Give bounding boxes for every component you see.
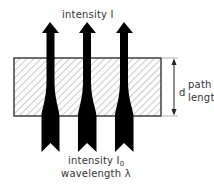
output-intensity-label: intensity I (62, 9, 114, 20)
input-intensity-subscript: 0 (120, 160, 125, 168)
beam-arrow-head (116, 22, 133, 33)
length-label: length (188, 92, 214, 103)
path-length-dimension (161, 58, 178, 116)
input-intensity-text: intensity I (68, 155, 120, 166)
beam-arrow-head (42, 22, 59, 33)
wavelength-label: wavelength λ (61, 168, 131, 179)
d-symbol-label: d (179, 87, 186, 98)
dimension-arrow-bottom (172, 109, 177, 116)
path-label: path (188, 79, 212, 90)
dimension-arrow-top (172, 59, 177, 66)
beam-arrow-head (79, 22, 96, 33)
